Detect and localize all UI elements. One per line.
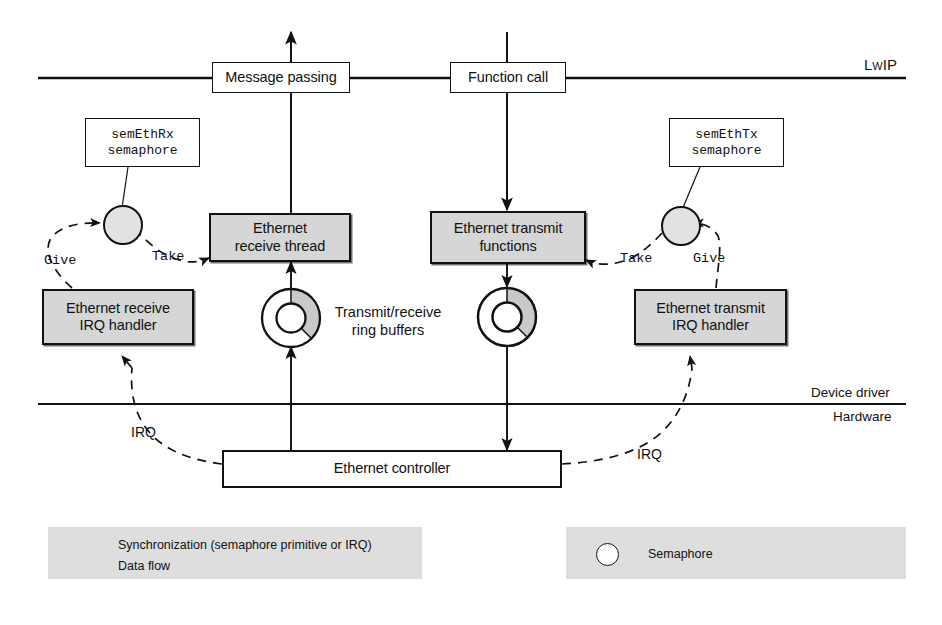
leader-sem-rx — [122, 167, 128, 208]
node-ethernet-receive-irq-handler[interactable]: Ethernet receive IRQ handler — [42, 289, 194, 345]
eth-receive-thread-line2: receive thread — [235, 238, 326, 255]
ring-buffers-caption-line2: ring buffers — [332, 321, 444, 339]
sem-eth-tx-kind: semaphore — [691, 143, 761, 158]
legend-panel-left — [48, 527, 422, 579]
sem-eth-rx-kind: semaphore — [107, 143, 177, 158]
edge-label-irq-right: IRQ — [637, 446, 662, 462]
semaphore-circle-rx[interactable] — [103, 205, 143, 245]
layer-label-device-driver: Device driver — [811, 385, 890, 400]
ethernet-controller-label: Ethernet controller — [334, 460, 451, 477]
node-ethernet-receive-thread[interactable]: Ethernet receive thread — [209, 213, 351, 262]
ring-buffers-caption-line1: Transmit/receive — [332, 303, 444, 321]
eth-transmit-irq-line2: IRQ handler — [672, 317, 749, 334]
node-sem-eth-rx-box[interactable]: semEthRx semaphore — [85, 118, 200, 167]
legend-item-synchronization-label: Synchronization (semaphore primitive or … — [118, 538, 372, 552]
layer-label-hardware: Hardware — [833, 409, 892, 424]
leader-sem-tx — [682, 167, 700, 210]
tx-ring-buffer-icon — [478, 288, 536, 346]
node-ethernet-controller[interactable]: Ethernet controller — [222, 450, 562, 488]
sync-irq-left — [122, 356, 222, 464]
edge-label-give-tx: Give — [693, 251, 725, 266]
eth-receive-irq-line2: IRQ handler — [79, 317, 156, 334]
edge-label-take-rx: Take — [152, 249, 184, 264]
layer-label-lwip: LwIP — [864, 56, 897, 73]
eth-transmit-functions-line1: Ethernet transmit — [454, 220, 563, 237]
node-ethernet-transmit-functions[interactable]: Ethernet transmit functions — [430, 211, 586, 264]
node-function-call[interactable]: Function call — [450, 62, 566, 93]
rx-ring-buffer-icon — [262, 289, 320, 347]
edge-label-give-rx: Give — [44, 253, 76, 268]
node-function-call-label: Function call — [468, 69, 548, 86]
legend-circle-icon — [596, 543, 619, 566]
node-sem-eth-tx-box[interactable]: semEthTx semaphore — [669, 118, 784, 167]
ring-buffers-caption: Transmit/receive ring buffers — [332, 303, 444, 339]
semaphore-circle-tx[interactable] — [661, 206, 701, 246]
legend-item-dataflow-label: Data flow — [118, 559, 170, 573]
eth-receive-thread-line1: Ethernet — [253, 220, 307, 237]
node-message-passing[interactable]: Message passing — [212, 62, 350, 93]
eth-receive-irq-line1: Ethernet receive — [66, 300, 170, 317]
node-ethernet-transmit-irq-handler[interactable]: Ethernet transmit IRQ handler — [634, 289, 787, 345]
edge-label-take-tx: Take — [620, 251, 652, 266]
sem-eth-rx-name: semEthRx — [111, 127, 173, 142]
eth-transmit-functions-line2: functions — [479, 238, 536, 255]
sem-eth-tx-name: semEthTx — [695, 127, 757, 142]
edge-label-irq-left: IRQ — [131, 424, 156, 440]
sync-irq-right — [562, 356, 692, 464]
legend-item-semaphore-label: Semaphore — [648, 547, 713, 561]
node-message-passing-label: Message passing — [225, 69, 336, 86]
eth-transmit-irq-line1: Ethernet transmit — [656, 300, 765, 317]
architecture-diagram: LwIP Device driver Hardware Message pass… — [0, 0, 942, 625]
